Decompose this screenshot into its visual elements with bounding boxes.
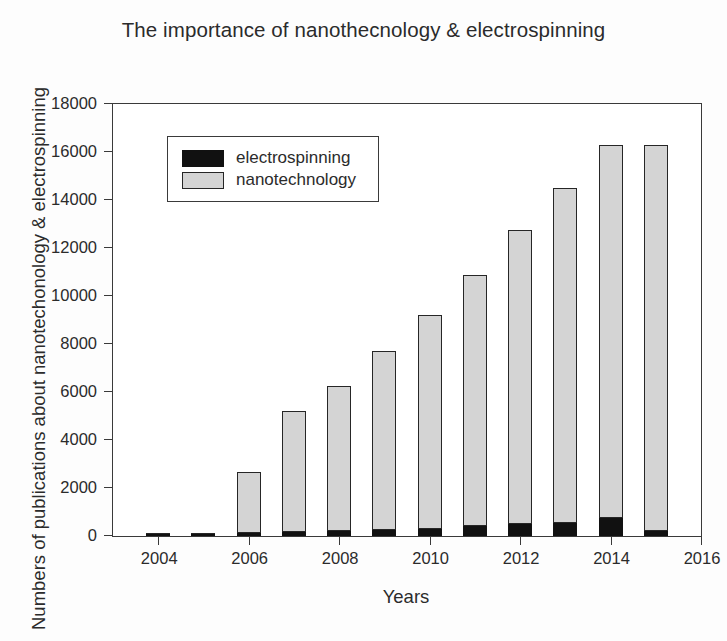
- y-axis-tick-label: 12000: [51, 238, 97, 257]
- y-axis-tick-label: 6000: [60, 382, 97, 401]
- bar-group[interactable]: [237, 472, 261, 536]
- y-axis-tick-label: 16000: [51, 142, 97, 161]
- y-axis-tick: 16000: [104, 151, 113, 152]
- plot-area: 0200040006000800010000120001400016000180…: [112, 103, 702, 537]
- legend-item-nanotechnology: nanotechnology: [182, 169, 356, 191]
- bar-segment-nanotechnology[interactable]: [418, 315, 442, 529]
- x-axis-tick-label: 2012: [503, 549, 540, 568]
- bar-group[interactable]: [644, 145, 668, 536]
- chart-legend: electrospinning nanotechnology: [167, 136, 379, 202]
- x-axis-tick-label: 2014: [593, 549, 630, 568]
- y-axis-tick: 8000: [104, 343, 113, 344]
- bar-segment-nanotechnology[interactable]: [463, 275, 487, 527]
- bar-group[interactable]: [553, 188, 577, 536]
- y-axis-tick-label: 10000: [51, 286, 97, 305]
- bar-segment-nanotechnology[interactable]: [372, 351, 396, 530]
- y-axis-tick: 10000: [104, 295, 113, 296]
- bar-segment-electrospinning[interactable]: [372, 530, 396, 536]
- x-axis-tick: 2010: [430, 536, 431, 545]
- y-axis-tick-label: 4000: [60, 430, 97, 449]
- bar-segment-electrospinning[interactable]: [553, 523, 577, 536]
- x-axis-title: Years: [112, 586, 700, 608]
- bar-segment-electrospinning[interactable]: [282, 532, 306, 536]
- x-axis-tick: 2014: [611, 536, 612, 545]
- bar-segment-electrospinning[interactable]: [327, 531, 351, 536]
- bar-segment-electrospinning[interactable]: [508, 524, 532, 536]
- bar-group[interactable]: [599, 145, 623, 536]
- y-axis-tick: 2000: [104, 487, 113, 488]
- bar-segment-nanotechnology[interactable]: [644, 145, 668, 531]
- legend-item-electrospinning: electrospinning: [182, 147, 356, 169]
- black-square-icon: [182, 150, 224, 167]
- bar-group[interactable]: [463, 275, 487, 536]
- bar-group[interactable]: [146, 535, 170, 536]
- x-axis-tick-label: 2008: [322, 549, 359, 568]
- bar-segment-electrospinning[interactable]: [463, 526, 487, 536]
- bar-group[interactable]: [282, 411, 306, 536]
- x-axis-tick-label: 2004: [141, 549, 178, 568]
- gray-square-icon: [182, 172, 224, 189]
- y-axis-tick-label: 2000: [60, 478, 97, 497]
- bar-segment-nanotechnology[interactable]: [237, 472, 261, 534]
- y-axis-title-container: Numbers of publications about nanotechon…: [0, 0, 40, 641]
- bar-group[interactable]: [372, 351, 396, 536]
- bar-group[interactable]: [418, 314, 442, 536]
- chart-figure: The importance of nanothecnology & elect…: [0, 0, 727, 641]
- bar-segment-nanotechnology[interactable]: [508, 230, 532, 524]
- bar-group[interactable]: [327, 386, 351, 536]
- y-axis-title: Numbers of publications about nanotechon…: [28, 87, 50, 630]
- chart-title: The importance of nanothecnology & elect…: [0, 18, 727, 42]
- y-axis-tick-label: 14000: [51, 190, 97, 209]
- bar-segment-nanotechnology[interactable]: [599, 145, 623, 518]
- x-axis-tick-label: 2016: [684, 549, 721, 568]
- bar-segment-nanotechnology[interactable]: [327, 386, 351, 531]
- bar-segment-electrospinning[interactable]: [418, 529, 442, 536]
- y-axis-tick-label: 0: [88, 526, 97, 545]
- bar-segment-nanotechnology[interactable]: [282, 411, 306, 532]
- y-axis-tick-label: 8000: [60, 334, 97, 353]
- y-axis-tick-label: 18000: [51, 94, 97, 113]
- x-axis-tick: 2006: [249, 536, 250, 545]
- x-axis-tick: 2004: [158, 536, 159, 545]
- bar-segment-electrospinning[interactable]: [644, 531, 668, 536]
- bar-segment-electrospinning[interactable]: [237, 533, 261, 536]
- x-axis-tick-label: 2006: [231, 549, 268, 568]
- legend-label-nanotechnology: nanotechnology: [236, 170, 356, 190]
- x-axis-tick: 2016: [701, 536, 702, 545]
- x-axis-tick: 2008: [339, 536, 340, 545]
- y-axis-tick: 6000: [104, 391, 113, 392]
- y-axis-tick: 14000: [104, 199, 113, 200]
- legend-label-electrospinning: electrospinning: [236, 148, 350, 168]
- x-axis-tick-label: 2010: [412, 549, 449, 568]
- bar-segment-electrospinning[interactable]: [146, 534, 170, 536]
- bar-group[interactable]: [191, 534, 215, 536]
- bar-segment-electrospinning[interactable]: [599, 518, 623, 536]
- y-axis-tick: 18000: [104, 103, 113, 104]
- bar-group[interactable]: [508, 230, 532, 536]
- x-axis-tick: 2012: [520, 536, 521, 545]
- y-axis-tick: 4000: [104, 439, 113, 440]
- y-axis-tick: 12000: [104, 247, 113, 248]
- bar-segment-electrospinning[interactable]: [191, 534, 215, 536]
- y-axis-tick: 0: [104, 535, 113, 536]
- bar-segment-nanotechnology[interactable]: [553, 188, 577, 523]
